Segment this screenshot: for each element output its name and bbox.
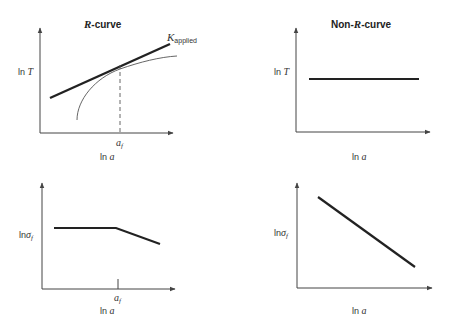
k-applied-line [50,44,170,98]
panel-strength-non-r-curve: lnσf ln a [274,183,432,316]
x-axis-label: ln a [100,151,115,162]
diagram-svg: R-curve Kapplied af ln T ln a Non-R-curv… [0,0,450,327]
r-curve-line [77,56,177,120]
x-axis-label: ln a [100,305,115,316]
y-axis-label: lnσf [274,227,289,240]
panel-title: R-curve [83,18,122,30]
y-axis-label: lnσf [19,229,34,242]
x-axis-label: ln a [352,151,367,162]
af-label: af [116,137,124,150]
panel-title: Non-R-curve [331,18,392,30]
strength-line [318,197,415,267]
k-applied-label: Kapplied [166,31,197,45]
af-label: af [114,292,122,305]
strength-line [54,228,160,244]
y-axis-label: ln T [18,66,35,77]
panel-strength-r-curve: af lnσf ln a [19,183,175,316]
x-axis-label: ln a [352,305,367,316]
figure: R-curve Kapplied af ln T ln a Non-R-curv… [0,0,450,327]
panel-r-curve: R-curve Kapplied af ln T ln a [18,18,197,162]
panel-non-r-curve: Non-R-curve ln T ln a [274,18,430,162]
y-axis-label: ln T [274,66,291,77]
